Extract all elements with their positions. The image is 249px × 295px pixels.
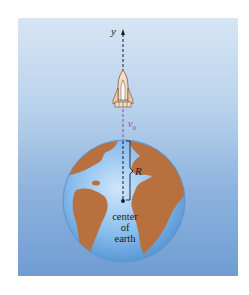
arrow-up-icon — [121, 29, 125, 35]
center-label-line-2: of — [104, 222, 146, 233]
y-axis — [121, 29, 125, 70]
velocity-label: v0 — [128, 119, 136, 132]
rocket-icon — [113, 70, 133, 107]
radius-label: R — [135, 166, 142, 177]
y-axis-label: y — [111, 26, 116, 37]
velocity-subscript: 0 — [132, 124, 136, 132]
center-dot — [121, 199, 125, 203]
center-label-line-1: center — [104, 211, 146, 222]
center-of-earth-label: center of earth — [104, 211, 146, 244]
center-label-line-3: earth — [104, 233, 146, 244]
diagram-canvas — [0, 0, 249, 295]
